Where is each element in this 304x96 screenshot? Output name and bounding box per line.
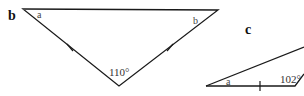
angle-label-110: 110° [109, 66, 130, 78]
figure-label-c: c [245, 22, 251, 37]
angle-label-b: b [193, 15, 198, 26]
angle-label-a-c: a [226, 76, 231, 87]
figure-label-b: b [8, 8, 16, 23]
tick-mark [167, 44, 173, 51]
diagram-canvas: b a b 110° c a 102° [0, 0, 304, 96]
angle-label-a: a [37, 9, 42, 20]
tick-mark [67, 44, 73, 51]
angle-label-102: 102° [280, 73, 301, 85]
